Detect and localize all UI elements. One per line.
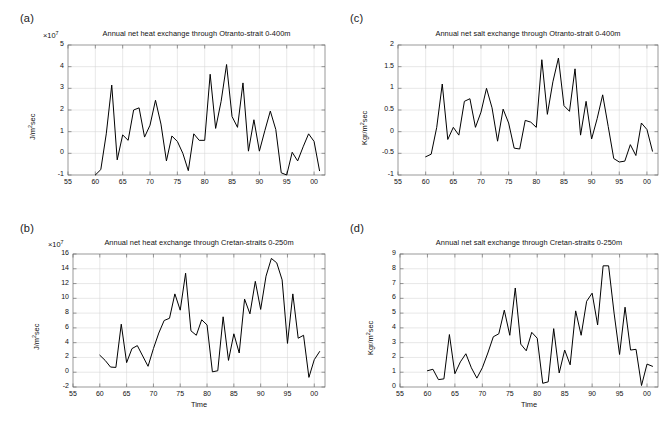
x-tick-label: 80 [195,390,219,397]
panel-a-exponent: ×107 [43,30,59,40]
panel-d-label: (d) [350,222,364,234]
y-tick-label: 16 [41,249,69,256]
x-tick-label: 60 [415,390,439,397]
x-tick-label: 80 [525,390,549,397]
x-tick-label: 65 [111,178,135,185]
x-tick-label: 70 [469,178,493,185]
x-tick-label: 80 [193,178,217,185]
x-tick-label: 85 [220,178,244,185]
panel-b-xlabel: Time [73,400,325,409]
y-tick-label: 0.5 [366,105,394,112]
y-tick-label: 0 [368,382,396,389]
series-line [100,258,320,377]
x-tick-label: 75 [165,178,189,185]
y-tick-label: 7 [368,279,396,286]
panel-a-label: (a) [20,12,34,24]
x-tick-label: 55 [388,390,412,397]
panel-d: (d) Annual net salt exchange through Cre… [336,210,671,430]
x-tick-label: 75 [497,178,521,185]
x-tick-label: 60 [83,178,107,185]
figure-root: (a) ×107 Annual net heat exchange throug… [0,0,671,430]
panel-b: (b) ×107 Annual net heat exchange throug… [0,210,336,430]
series-line [95,65,319,176]
panel-c-plot [398,45,658,175]
panel-b-title: Annual net heat exchange through Cretan-… [73,238,325,247]
x-tick-label: 70 [141,390,165,397]
panel-a-title: Annual net heat exchange through Otranto… [68,29,325,38]
x-tick-label: 85 [222,390,246,397]
x-tick-label: 00 [635,390,659,397]
y-tick-label: 10 [41,293,69,300]
x-tick-label: 95 [608,390,632,397]
panel-b-exponent: ×107 [48,239,64,249]
panel-c: (c) Annual net salt exchange through Otr… [336,0,671,210]
panel-d-title: Annual net salt exchange through Cretan-… [400,238,658,247]
y-tick-label: -1 [366,170,394,177]
panel-d-plot [400,254,658,387]
panel-c-label: (c) [350,12,363,24]
x-tick-label: 95 [275,178,299,185]
y-tick-label: 0 [366,127,394,134]
x-tick-label: 65 [443,390,467,397]
y-tick-label: 8 [41,308,69,315]
panel-d-xlabel: Time [400,400,658,409]
x-tick-label: 95 [275,390,299,397]
y-tick-label: 4 [41,338,69,345]
y-tick-label: 1 [36,127,64,134]
panel-b-plot [73,254,325,387]
x-tick-label: 80 [524,178,548,185]
panel-a: (a) ×107 Annual net heat exchange throug… [0,0,336,210]
y-tick-label: 1.5 [366,62,394,69]
y-tick-label: 2 [41,352,69,359]
y-tick-label: 4 [36,62,64,69]
y-tick-label: 6 [41,323,69,330]
y-tick-label: -1 [36,170,64,177]
y-tick-label: 12 [41,279,69,286]
x-tick-label: 75 [498,390,522,397]
y-tick-label: 4 [368,323,396,330]
y-tick-label: 1 [368,367,396,374]
y-tick-label: 2 [36,105,64,112]
x-tick-label: 55 [386,178,410,185]
x-tick-label: 65 [115,390,139,397]
y-tick-label: 5 [36,40,64,47]
x-tick-label: 00 [635,178,659,185]
y-tick-label: 3 [36,83,64,90]
x-tick-label: 90 [580,390,604,397]
y-tick-label: 0 [36,148,64,155]
y-tick-label: 9 [368,249,396,256]
panel-a-plot [68,45,325,175]
y-tick-label: 6 [368,293,396,300]
x-tick-label: 00 [302,178,326,185]
x-tick-label: 70 [470,390,494,397]
x-tick-label: 70 [138,178,162,185]
y-tick-label: -0.5 [366,148,394,155]
x-tick-label: 75 [168,390,192,397]
y-tick-label: 5 [368,308,396,315]
y-tick-label: 3 [368,338,396,345]
x-tick-label: 60 [414,178,438,185]
x-tick-label: 95 [607,178,631,185]
y-tick-label: 2 [366,40,394,47]
x-tick-label: 55 [61,390,85,397]
x-tick-label: 90 [249,390,273,397]
x-tick-label: 00 [302,390,326,397]
panel-b-ylabel: J/m2sec [31,324,41,350]
x-tick-label: 85 [552,178,576,185]
x-tick-label: 90 [247,178,271,185]
x-tick-label: 60 [88,390,112,397]
x-tick-label: 85 [553,390,577,397]
x-tick-label: 55 [56,178,80,185]
y-tick-label: 14 [41,264,69,271]
y-tick-label: 0 [41,367,69,374]
x-tick-label: 90 [580,178,604,185]
y-tick-label: 1 [366,83,394,90]
y-tick-label: 8 [368,264,396,271]
x-tick-label: 65 [441,178,465,185]
panel-b-label: (b) [20,222,34,234]
y-tick-label: -2 [41,382,69,389]
panel-c-title: Annual net salt exchange through Otranto… [398,29,658,38]
y-tick-label: 2 [368,352,396,359]
